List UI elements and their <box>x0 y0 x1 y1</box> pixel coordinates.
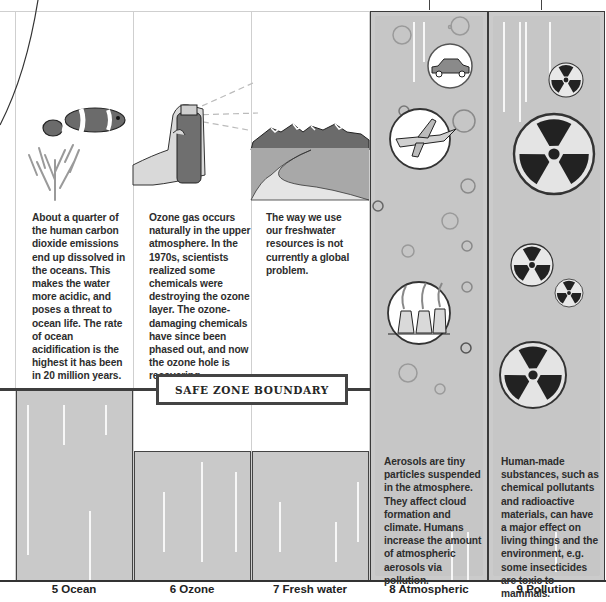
fresh-water-description: The way we use our freshwater resources … <box>266 211 360 277</box>
clownfish-and-coral-icon <box>15 100 135 190</box>
radiation-symbol-icon <box>488 11 605 411</box>
safe-zone-boundary-text: SAFE ZONE BOUNDARY <box>175 384 329 396</box>
river-and-mountains-icon <box>251 120 369 200</box>
ocean-bar <box>16 390 133 581</box>
spray-can-icon <box>133 75 253 185</box>
ocean-label: 5 Ocean <box>15 583 133 595</box>
ozone-bar <box>134 451 251 581</box>
safe-zone-boundary-label: SAFE ZONE BOUNDARY <box>156 374 348 405</box>
safe-zone-boundary-line <box>347 388 370 391</box>
baseline <box>0 580 606 582</box>
fresh-water-bar <box>252 451 369 581</box>
atmospheric-label: 8 Atmospheric <box>370 583 488 595</box>
ozone-label: 6 Ozone <box>133 583 251 595</box>
column-tick-atmospheric <box>429 0 430 10</box>
ocean-description: About a quarter of the human carbon diox… <box>32 211 132 383</box>
atmospheric-description: Aerosols are tiny particles suspended in… <box>384 455 484 587</box>
ozone-description: Ozone gas occurs naturally in the upper … <box>149 211 253 383</box>
safe-zone-boundary-line <box>0 388 157 391</box>
pollution-description: Human-made substances, such as chemical … <box>501 455 601 600</box>
fresh-water-label: 7 Fresh water <box>251 583 369 595</box>
pollution-label: 9 Pollution <box>487 583 605 595</box>
column-tick-pollution <box>541 0 542 10</box>
car-plane-factory-icon <box>370 11 488 391</box>
